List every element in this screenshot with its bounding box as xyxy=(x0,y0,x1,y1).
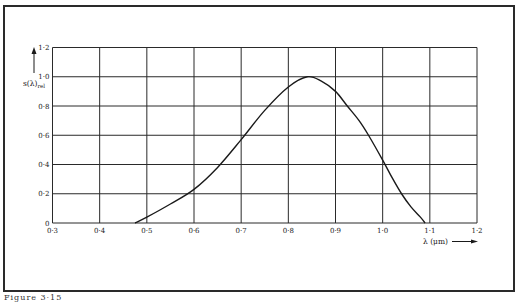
x-tick-label: 0·5 xyxy=(141,227,152,235)
x-tick-label: 0·4 xyxy=(94,227,106,235)
y-tick-label: 0 xyxy=(45,220,49,228)
y-tick-label: 0·4 xyxy=(38,161,50,169)
x-tick-label: 0·7 xyxy=(236,227,247,235)
y-tick-label: 0·2 xyxy=(38,190,49,198)
x-tick-label: 0·6 xyxy=(188,227,200,235)
y-tick-label: 0·8 xyxy=(38,103,49,111)
y-axis-arrowhead-icon xyxy=(32,47,37,54)
tick-labels: 0·30·40·50·60·70·80·91·01·11·200·20·40·6… xyxy=(38,44,482,235)
x-tick-label: 0·3 xyxy=(47,227,58,235)
chart-grid xyxy=(53,48,478,224)
y-axis-label-group: s(λ)rel xyxy=(23,47,45,89)
figure-caption: Figure 3·15 xyxy=(4,293,62,302)
x-axis-label: λ (μm) xyxy=(423,237,448,246)
y-tick-label: 1·0 xyxy=(38,73,49,81)
x-axis-label-group: λ (μm) xyxy=(423,237,478,246)
y-tick-label: 1·2 xyxy=(38,44,49,52)
x-axis-arrowhead-icon xyxy=(471,240,478,244)
sensitivity-curve xyxy=(135,77,425,223)
x-tick-label: 1·0 xyxy=(377,227,388,235)
x-tick-label: 0·9 xyxy=(330,227,341,235)
y-tick-label: 0·6 xyxy=(38,132,50,140)
x-tick-label: 1·1 xyxy=(424,227,435,235)
x-tick-label: 0·8 xyxy=(283,227,294,235)
x-tick-label: 1·2 xyxy=(471,227,482,235)
